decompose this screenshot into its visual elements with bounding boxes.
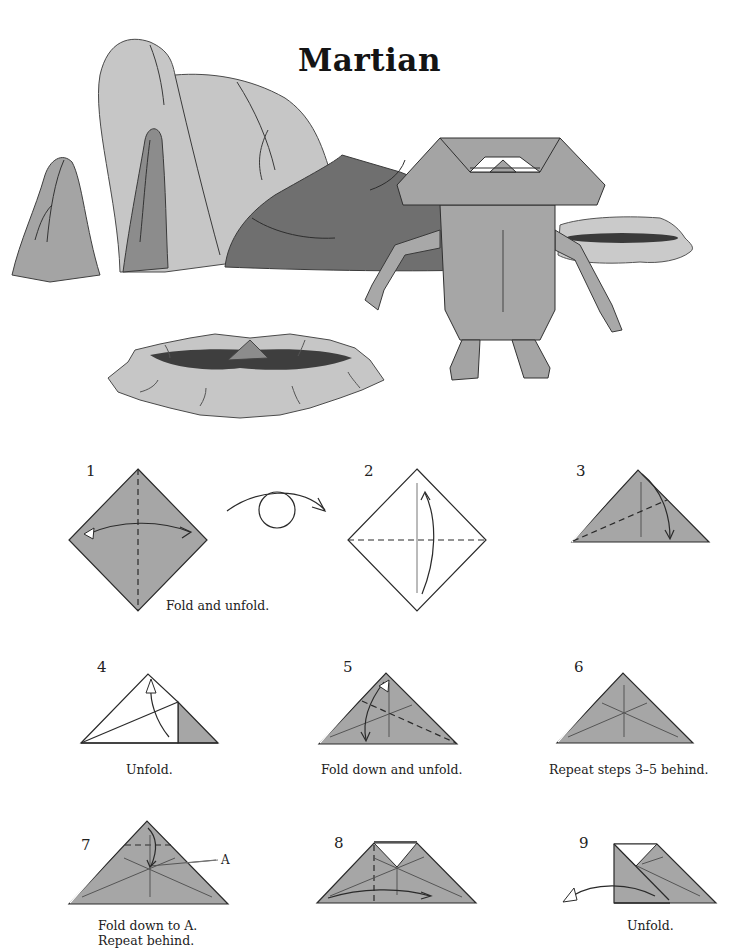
step-4-caption: Unfold. <box>126 762 173 777</box>
step-3-diagram <box>572 468 709 542</box>
step-7-label-a: A <box>221 853 230 867</box>
step-6-diagram <box>557 671 693 743</box>
step-7-number: 7 <box>81 836 91 854</box>
step-6-caption: Repeat steps 3–5 behind. <box>549 762 709 777</box>
step-6-number: 6 <box>574 658 584 676</box>
step-9-diagram <box>563 844 716 903</box>
step-7-diagram <box>69 819 228 904</box>
step-2-number: 2 <box>364 462 374 480</box>
step-1-diagram <box>69 469 207 611</box>
step-5-caption: Fold down and unfold. <box>321 762 462 777</box>
step-1-number: 1 <box>86 462 96 480</box>
step-4-number: 4 <box>97 658 107 676</box>
step-7-caption-line1: Fold down to A. <box>98 918 197 933</box>
step-5-diagram <box>319 671 457 744</box>
step-9-caption: Unfold. <box>627 918 674 933</box>
illustration-canvas <box>0 0 756 951</box>
step-5-number: 5 <box>343 658 353 676</box>
crater-small <box>108 334 384 418</box>
step-9-number: 9 <box>579 834 589 852</box>
step-7-caption-line2: Repeat behind. <box>98 933 194 948</box>
step-3-number: 3 <box>576 462 586 480</box>
step-4-diagram <box>81 674 218 743</box>
step-8-number: 8 <box>334 834 344 852</box>
step-2-diagram <box>348 469 486 611</box>
step-1-caption: Fold and unfold. <box>166 598 269 613</box>
turn-over-icon <box>227 492 325 528</box>
